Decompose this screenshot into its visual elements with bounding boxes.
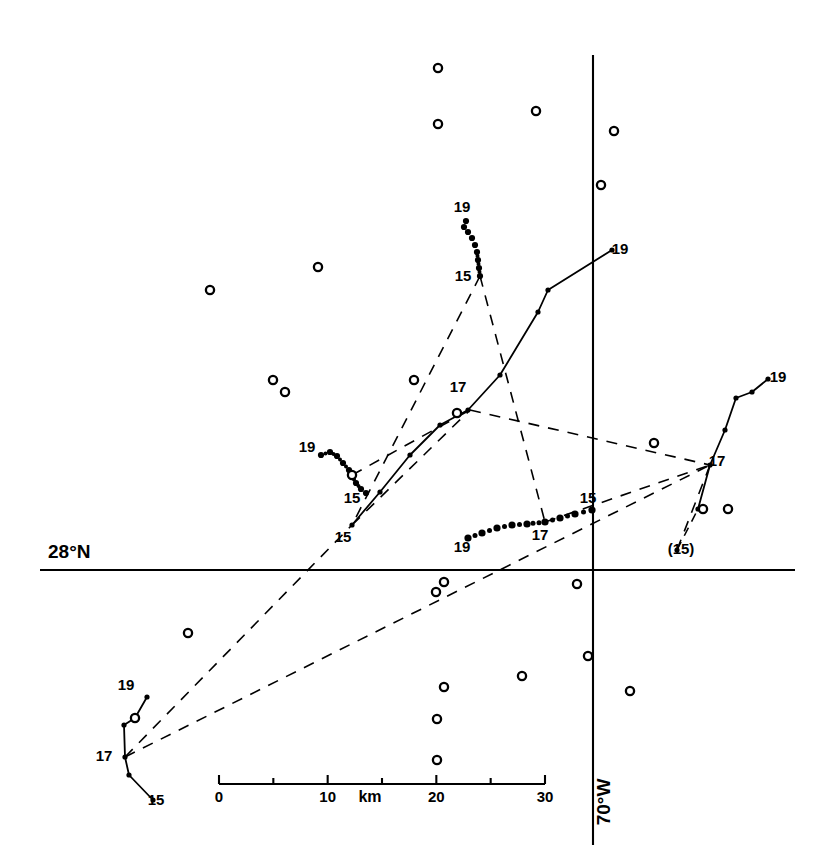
track-center-bottom-fix-6 xyxy=(556,514,563,521)
drifter-track-figure: 28°N70°W 0102030km 19151915151719191715(… xyxy=(0,0,821,863)
track-center-long-fix-3 xyxy=(437,422,442,427)
track-day-label: 15 xyxy=(580,489,597,506)
track-center-bottom-fix-1 xyxy=(478,529,485,536)
track-day-label: 19 xyxy=(454,538,471,555)
track-day-label: 15 xyxy=(148,791,165,808)
track-day-label: 19 xyxy=(118,676,135,693)
station-marker xyxy=(206,286,214,294)
track-top-center-fix-0 xyxy=(477,273,483,279)
track-center-bottom-fix-3 xyxy=(508,521,515,528)
track-top-center-fix-4 xyxy=(472,242,478,248)
track-bottom-left-fix-1 xyxy=(126,772,131,777)
track-center-bottom-fix-7 xyxy=(571,510,578,517)
station-marker xyxy=(573,580,581,588)
station-marker xyxy=(434,64,442,72)
track-day-label: 19 xyxy=(770,368,787,385)
station-marker xyxy=(433,756,441,764)
station-marker xyxy=(184,629,192,637)
track-center-long-fix-4 xyxy=(465,407,470,412)
track-top-center-fix-8 xyxy=(463,218,469,224)
track-top-center-fix-1 xyxy=(476,265,482,271)
track-top-center-fix-3 xyxy=(474,249,480,255)
track-left-small-fix-8 xyxy=(363,490,369,496)
track-left-small-fix-2 xyxy=(334,453,340,459)
track-center-bottom-dot-7 xyxy=(517,522,522,527)
track-top-center-fix-5 xyxy=(469,235,475,241)
station-marker xyxy=(584,652,592,660)
station-marker xyxy=(432,588,440,596)
track-left-small-fix-0 xyxy=(318,452,324,458)
track-right-fix-3 xyxy=(722,427,727,432)
station-marker xyxy=(597,181,605,189)
track-center-bottom-dot-10 xyxy=(537,520,542,525)
station-marker xyxy=(281,388,289,396)
track-day-label: 15 xyxy=(344,489,361,506)
station-marker xyxy=(532,107,540,115)
station-marker xyxy=(348,471,356,479)
track-center-long-fix-2 xyxy=(407,452,412,457)
track-center-long-fix-1 xyxy=(377,489,382,494)
track-center-long-fix-7 xyxy=(545,287,550,292)
track-top-center-fix-7 xyxy=(461,224,467,230)
latitude-label: 28°N xyxy=(48,541,90,562)
station-marker xyxy=(724,505,732,513)
track-center-bottom-dot-16 xyxy=(581,510,586,515)
station-marker xyxy=(131,714,139,722)
track-center-long-fix-0 xyxy=(349,522,354,527)
station-marker xyxy=(314,263,322,271)
scalebar-tick-label: 10 xyxy=(319,788,336,805)
track-center-bottom-dot-14 xyxy=(565,514,570,519)
track-right-fix-5 xyxy=(749,389,754,394)
station-marker xyxy=(453,409,461,417)
station-marker xyxy=(440,683,448,691)
track-center-bottom-dot-12 xyxy=(550,518,555,523)
track-left-small-fix-1 xyxy=(327,449,333,455)
track-top-center-fix-2 xyxy=(475,257,481,263)
track-center-bottom-dot-1 xyxy=(473,533,478,538)
track-day-label: 19 xyxy=(299,438,316,455)
track-day-label: 15 xyxy=(455,267,472,284)
station-marker xyxy=(269,376,277,384)
track-center-long-fix-6 xyxy=(535,309,540,314)
track-day-label: 17 xyxy=(450,378,467,395)
track-top-center-fix-6 xyxy=(465,229,471,235)
track-day-label: 17 xyxy=(709,452,726,469)
track-center-long-fix-5 xyxy=(497,372,502,377)
station-marker xyxy=(433,715,441,723)
track-bottom-left-fix-3 xyxy=(121,722,126,727)
station-marker xyxy=(650,439,658,447)
station-marker xyxy=(626,687,634,695)
track-bottom-left-fix-2 xyxy=(122,754,127,759)
longitude-label: 70°W xyxy=(593,779,614,826)
track-bottom-left-fix-5 xyxy=(144,694,149,699)
track-center-bottom-fix-5 xyxy=(541,518,548,525)
track-day-label: 19 xyxy=(454,198,471,215)
station-marker xyxy=(440,578,448,586)
station-marker xyxy=(410,376,418,384)
scalebar-tick-label: 30 xyxy=(537,788,554,805)
figure-canvas: 28°N70°W 0102030km 19151915151719191715(… xyxy=(0,0,821,863)
track-center-bottom-dot-3 xyxy=(487,528,492,533)
figure-background xyxy=(0,0,821,863)
track-left-small-fix-6 xyxy=(353,480,359,486)
track-left-small-dot-1 xyxy=(324,452,328,456)
station-marker xyxy=(610,127,618,135)
track-day-label: 17 xyxy=(96,747,113,764)
station-marker xyxy=(434,120,442,128)
scalebar-tick-label: 0 xyxy=(215,788,223,805)
track-left-small-fix-3 xyxy=(340,460,346,466)
track-day-label: 15 xyxy=(335,528,352,545)
track-day-label: 19 xyxy=(612,240,629,257)
track-center-bottom-fix-2 xyxy=(493,524,500,531)
station-marker xyxy=(518,672,526,680)
track-day-label: 17 xyxy=(532,526,549,543)
track-center-bottom-fix-4 xyxy=(523,520,530,527)
track-day-label: (15) xyxy=(668,540,695,557)
scalebar-unit-label: km xyxy=(358,788,381,805)
station-marker xyxy=(699,505,707,513)
scalebar-tick-label: 20 xyxy=(428,788,445,805)
track-center-bottom-dot-5 xyxy=(502,524,507,529)
track-right-fix-4 xyxy=(733,395,738,400)
